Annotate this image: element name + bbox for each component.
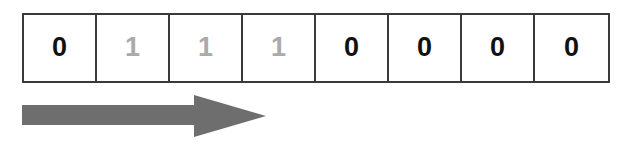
arrow-right-icon <box>20 92 268 140</box>
bit-value: 0 <box>564 34 579 61</box>
bit-value: 1 <box>198 34 213 61</box>
bit-value: 0 <box>52 34 67 61</box>
bit-row: 0 1 1 1 0 0 0 0 <box>22 13 610 83</box>
arrow-right-polygon <box>22 95 266 137</box>
bit-value: 1 <box>125 34 140 61</box>
bit-cell[interactable]: 0 <box>535 15 608 81</box>
bit-row-diagram: 0 1 1 1 0 0 0 0 <box>0 0 625 145</box>
bit-value: 0 <box>417 34 432 61</box>
bit-cell[interactable]: 0 <box>389 15 462 81</box>
bit-value: 0 <box>344 34 359 61</box>
bit-cell[interactable]: 1 <box>243 15 316 81</box>
bit-cell[interactable]: 0 <box>24 15 97 81</box>
arrow-right-shape <box>20 92 268 140</box>
bit-cell[interactable]: 0 <box>462 15 535 81</box>
bit-cell[interactable]: 1 <box>97 15 170 81</box>
bit-value: 1 <box>271 34 286 61</box>
bit-value: 0 <box>490 34 505 61</box>
bit-cell[interactable]: 0 <box>316 15 389 81</box>
bit-cell[interactable]: 1 <box>170 15 243 81</box>
